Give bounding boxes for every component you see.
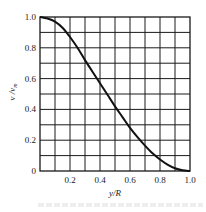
figure-caption-cutoff (38, 203, 203, 207)
line-chart: 00.20.40.60.81.0 0.20.40.60.81.0 v /vm y… (0, 0, 206, 212)
x-axis-label: y/R (108, 188, 121, 198)
y-tick-label: 0.6 (25, 74, 37, 84)
x-tick-label: 0.2 (64, 175, 75, 185)
grid-lines (40, 17, 190, 171)
y-tick-label: 0 (32, 166, 37, 176)
x-tick-label: 0.6 (124, 175, 136, 185)
x-tick-label: 1.0 (184, 175, 196, 185)
x-axis-ticks: 0.20.40.60.81.0 (64, 175, 196, 185)
y-axis-ticks: 00.20.40.60.81.0 (25, 12, 37, 176)
y-tick-label: 0.8 (25, 43, 37, 53)
x-tick-label: 0.4 (94, 175, 106, 185)
y-tick-label: 1.0 (25, 12, 37, 22)
x-tick-label: 0.8 (154, 175, 166, 185)
y-tick-label: 0.2 (25, 135, 36, 145)
y-axis-label: v /vm (7, 83, 18, 101)
y-tick-label: 0.4 (25, 104, 37, 114)
